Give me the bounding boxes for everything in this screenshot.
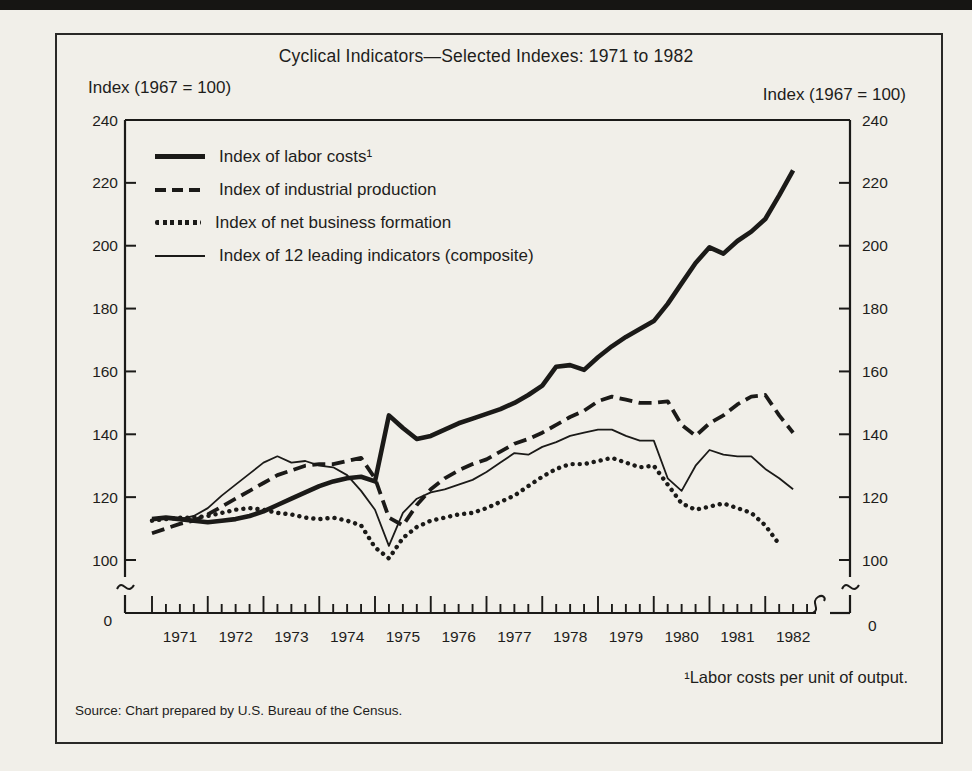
svg-text:140: 140 [92,426,118,443]
svg-text:1975: 1975 [386,628,420,645]
svg-text:1979: 1979 [609,628,643,645]
svg-text:1981: 1981 [720,628,754,645]
source-note: Source: Chart prepared by U.S. Bureau of… [75,703,402,718]
svg-text:100: 100 [92,552,118,569]
legend-label: Index of net business formation [215,213,451,233]
plot-svg: 1001001201201401401601601801802002002202… [0,0,972,771]
svg-text:1972: 1972 [218,628,252,645]
svg-text:160: 160 [92,363,118,380]
dotted-line-sample [155,220,201,225]
dashed-line-sample [155,188,205,192]
svg-text:1980: 1980 [664,628,699,645]
svg-text:120: 120 [92,489,118,506]
svg-text:240: 240 [862,112,888,129]
svg-text:240: 240 [92,112,118,129]
series-line-leading-indicators [152,430,793,546]
series-line-net-business-formation [152,458,779,559]
svg-text:0: 0 [103,612,112,629]
svg-text:200: 200 [862,237,888,254]
svg-text:180: 180 [862,300,888,317]
svg-text:0: 0 [868,617,877,634]
thin-solid-line-sample [155,255,205,257]
svg-text:220: 220 [862,174,888,191]
svg-text:120: 120 [862,489,888,506]
svg-text:160: 160 [862,363,888,380]
svg-text:1976: 1976 [441,628,475,645]
legend-label: Index of industrial production [219,180,436,200]
svg-text:220: 220 [92,174,118,191]
legend-label: Index of labor costs¹ [219,147,372,167]
legend-row-labor-costs: Index of labor costs¹ [155,140,534,173]
svg-text:180: 180 [92,300,118,317]
svg-text:1977: 1977 [497,628,531,645]
svg-text:100: 100 [862,552,888,569]
svg-text:1973: 1973 [274,628,308,645]
svg-text:1982: 1982 [776,628,810,645]
svg-text:1978: 1978 [553,628,587,645]
svg-text:200: 200 [92,237,118,254]
legend-row-industrial-production: Index of industrial production [155,173,534,206]
legend-row-net-business-formation: Index of net business formation [155,206,534,239]
legend: Index of labor costs¹ Index of industria… [155,140,534,272]
thick-solid-line-sample [155,154,205,159]
svg-text:1974: 1974 [330,628,365,645]
svg-text:1971: 1971 [163,628,197,645]
x-axis-ticks: 1971197219731974197519761977197819791980… [152,596,810,645]
legend-label: Index of 12 leading indicators (composit… [219,246,534,266]
legend-row-leading-indicators: Index of 12 leading indicators (composit… [155,239,534,272]
footnote: ¹Labor costs per unit of output. [684,668,908,687]
svg-text:140: 140 [862,426,888,443]
